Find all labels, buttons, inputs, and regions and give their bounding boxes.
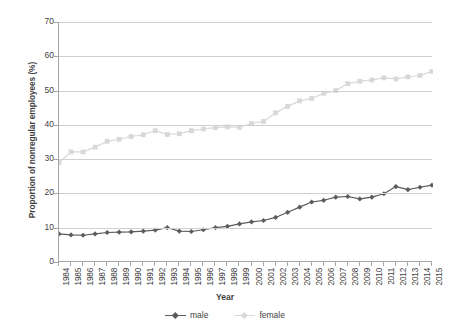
data-point-female [406,74,411,79]
x-axis-tick-label: 2014 [423,268,432,285]
y-axis-tick-label: 70 [24,16,54,26]
x-axis-tick-label: 1995 [194,268,203,285]
data-point-male [237,221,242,226]
data-point-female [69,150,74,155]
data-point-female [321,91,326,96]
data-point-female [394,77,399,82]
y-axis-tick-label: 20 [24,187,54,197]
x-axis-tick-mark [238,262,239,266]
x-axis-tick-mark [166,262,167,266]
x-axis-tick-mark [371,262,372,266]
data-point-female [153,128,158,133]
x-axis-tick-mark [94,262,95,266]
data-point-female [357,79,362,84]
x-axis-tick-label: 1986 [86,268,95,285]
legend-item-male[interactable]: male [165,310,208,320]
x-axis-tick-mark [359,262,360,266]
x-axis-tick-label: 2007 [339,268,348,285]
x-axis-tick-mark [190,262,191,266]
x-axis-tick-mark [323,262,324,266]
data-point-female [261,119,266,124]
x-axis-tick-label: 1989 [122,268,131,285]
data-point-male [309,199,314,204]
legend-swatch-female-icon [234,311,255,320]
data-point-male [333,195,338,200]
data-point-male [249,219,254,224]
x-axis-tick-mark [431,262,432,266]
data-point-male [80,233,85,238]
gridline [59,91,432,92]
gridline [59,56,432,57]
data-point-female [93,145,98,150]
data-point-female [273,110,278,115]
data-point-female [81,150,86,155]
legend-item-female[interactable]: female [234,310,285,320]
data-point-male [393,184,398,189]
x-axis-title: Year [0,292,450,302]
data-point-female [201,127,206,132]
x-axis-tick-label: 2010 [375,268,384,285]
x-axis-tick-mark [130,262,131,266]
data-point-female [213,125,218,130]
x-axis-tick-mark [202,262,203,266]
data-point-male [297,205,302,210]
x-axis-tick-label: 1988 [110,268,119,285]
data-point-female [59,160,61,165]
x-axis-tick-label: 2009 [363,268,372,285]
x-axis-tick-label: 2000 [255,268,264,285]
data-point-male [345,194,350,199]
x-axis-tick-mark [106,262,107,266]
series-line-female [59,71,432,162]
data-point-female [285,104,290,109]
data-point-male [105,230,110,235]
data-point-female [189,128,194,133]
data-point-female [418,73,423,78]
x-axis-tick-mark [407,262,408,266]
data-point-male [369,195,374,200]
x-axis-tick-mark [299,262,300,266]
x-axis-tick-label: 2011 [387,268,396,285]
x-axis-tick-mark [311,262,312,266]
chart-legend: malefemale [0,310,450,320]
x-axis-tick-label: 1984 [62,268,71,285]
data-point-male [357,196,362,201]
x-axis-tick-label: 1994 [182,268,191,285]
y-axis-tick-label: 30 [24,153,54,163]
x-axis-tick-label: 1985 [74,268,83,285]
x-axis-tick-mark [395,262,396,266]
x-axis-tick-label: 1991 [146,268,155,285]
data-point-male [273,215,278,220]
data-point-male [261,218,266,223]
legend-label: female [259,310,285,320]
x-axis-tick-mark [82,262,83,266]
x-axis-tick-label: 1997 [218,268,227,285]
data-point-male [59,231,62,236]
data-point-female [345,81,350,86]
y-axis-tick-label: 60 [24,50,54,60]
x-axis-tick-mark [178,262,179,266]
x-axis-tick-label: 2006 [327,268,336,285]
x-axis-tick-label: 1996 [206,268,215,285]
x-axis-tick-label: 2008 [351,268,360,285]
x-axis-tick-label: 1992 [158,268,167,285]
gridline [59,159,432,160]
data-point-female [381,75,386,80]
x-axis-tick-mark [287,262,288,266]
x-axis-tick-label: 2005 [315,268,324,285]
data-point-male [321,198,326,203]
data-point-female [297,98,302,103]
x-axis-tick-mark [383,262,384,266]
x-axis-tick-label: 1993 [170,268,179,285]
data-point-female [117,137,122,142]
gridline [59,193,432,194]
x-axis-tick-mark [275,262,276,266]
y-axis-tick-label: 10 [24,222,54,232]
x-axis-tick-mark [214,262,215,266]
x-axis-tick-mark [263,262,264,266]
x-axis-tick-label: 2002 [279,268,288,285]
gridline [59,228,432,229]
x-axis-tick-label: 1987 [98,268,107,285]
data-point-female [309,96,314,101]
x-axis-tick-mark [142,262,143,266]
x-axis-tick-mark [70,262,71,266]
